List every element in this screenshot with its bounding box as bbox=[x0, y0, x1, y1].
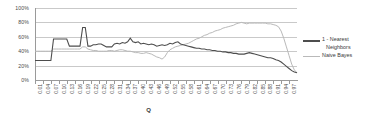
x-axis-title: Q bbox=[0, 107, 297, 113]
x-tick-label: 0.79 bbox=[244, 84, 250, 94]
x-tick-label: 0.88 bbox=[267, 84, 273, 94]
legend-swatch-icon bbox=[303, 40, 320, 42]
legend-item-naive-bayes[interactable]: Naive Bayes bbox=[303, 52, 377, 60]
x-tick-label: 0.10 bbox=[61, 84, 67, 94]
x-tick-label: 0.94 bbox=[283, 84, 289, 94]
x-tick-label: 0.58 bbox=[188, 84, 194, 94]
x-tick-label: 0.31 bbox=[117, 84, 123, 94]
legend-item-1-nearest-neighbors[interactable]: 1 - Nearest Neighbors bbox=[303, 36, 377, 51]
chart-legend: 1 - Nearest Neighbors Naive Bayes bbox=[303, 36, 377, 61]
x-tick-label: 0.91 bbox=[275, 84, 281, 94]
x-tick-label: 0.25 bbox=[101, 84, 107, 94]
x-tick-label: 0.64 bbox=[204, 84, 210, 94]
legend-label-cont: Neighbors bbox=[326, 44, 377, 52]
x-tick-label: 0.52 bbox=[172, 84, 178, 94]
x-tick-label: 0.19 bbox=[85, 84, 91, 94]
x-axis-labels: 0.010.040.070.100.130.160.190.220.250.28… bbox=[35, 84, 297, 108]
legend-label: 1 - Nearest bbox=[322, 36, 377, 44]
x-tick-label: 0.16 bbox=[77, 84, 83, 94]
x-tick-label: 0.40 bbox=[140, 84, 146, 94]
x-tick-label: 0.61 bbox=[196, 84, 202, 94]
x-tick-label: 0.76 bbox=[236, 84, 242, 94]
x-tick-label: 0.22 bbox=[93, 84, 99, 94]
x-tick-label: 0.46 bbox=[156, 84, 162, 94]
x-tick-label: 0.34 bbox=[125, 84, 131, 94]
series-line-1-nearest-neighbors bbox=[35, 27, 297, 72]
x-tick-label: 0.04 bbox=[45, 84, 51, 94]
x-tick-label: 0.73 bbox=[228, 84, 234, 94]
x-tick-label: 0.01 bbox=[37, 84, 43, 94]
x-tick-label: 0.43 bbox=[148, 84, 154, 94]
x-tick-label: 0.37 bbox=[132, 84, 138, 94]
legend-swatch-icon bbox=[303, 56, 320, 57]
x-tick-label: 0.82 bbox=[252, 84, 258, 94]
legend-label: Naive Bayes bbox=[322, 52, 377, 60]
x-tick-label: 0.85 bbox=[260, 84, 266, 94]
x-tick-label: 0.97 bbox=[291, 84, 297, 94]
x-tick-label: 0.28 bbox=[109, 84, 115, 94]
x-tick-label: 0.55 bbox=[180, 84, 186, 94]
series-line-naive-bayes bbox=[35, 22, 297, 72]
x-tick-label: 0.67 bbox=[212, 84, 218, 94]
x-tick-label: 0.07 bbox=[53, 84, 59, 94]
line-chart: 100% 80% 60% 40% 20% 0% 0.010.040.070.10… bbox=[0, 0, 377, 125]
x-tick-label: 0.70 bbox=[220, 84, 226, 94]
x-tick-label: 0.49 bbox=[164, 84, 170, 94]
x-tick-label: 0.13 bbox=[69, 84, 75, 94]
